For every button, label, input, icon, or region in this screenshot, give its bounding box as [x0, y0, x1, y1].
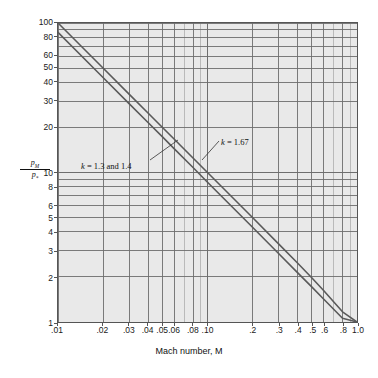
- y-axis-title-denominator: p*: [20, 170, 50, 181]
- x-tick-label: .02: [96, 326, 108, 335]
- x-tick-label: .2: [249, 326, 256, 335]
- y-axis-title: pM p*: [20, 158, 50, 181]
- annotation-k-1-67: k = 1.67: [221, 137, 249, 147]
- y-tick-label: 8: [48, 183, 53, 192]
- y-tick-label: 60: [44, 51, 53, 60]
- y-tick-label: 100: [39, 18, 53, 27]
- x-axis-title: Mach number, M: [0, 346, 378, 356]
- y-tick-label: 5: [48, 214, 53, 223]
- x-tick-label: .06: [168, 326, 180, 335]
- y-tick-label: 6: [48, 202, 53, 211]
- x-tick-label: .3: [276, 326, 283, 335]
- plot-area: [57, 22, 358, 323]
- x-tick-label: .4: [295, 326, 302, 335]
- x-axis-tick-labels: .01.02.03.04.05.06.08.10.2.3.4.5.6.81.0: [0, 326, 378, 342]
- x-tick-label: .5: [309, 326, 316, 335]
- x-tick-label: .01: [51, 326, 63, 335]
- y-tick-label: 2: [48, 273, 53, 282]
- annotation-k167-rest: = 1.67: [225, 137, 249, 147]
- data-layer: [58, 23, 357, 322]
- x-tick-label: .10: [202, 326, 214, 335]
- annotation-k13-rest: = 1.3 and 1.4: [85, 161, 132, 171]
- x-tick-label: .8: [340, 326, 347, 335]
- annotation-k-1-3-and-1-4: k = 1.3 and 1.4: [81, 161, 132, 171]
- y-tick-label: 50: [44, 63, 53, 72]
- y-tick-label: 30: [44, 96, 53, 105]
- x-tick-label: .08: [187, 326, 199, 335]
- x-tick-label: .05: [156, 326, 168, 335]
- curve-k-1-67: [58, 23, 357, 322]
- y-tick-label: 80: [44, 32, 53, 41]
- y-axis-title-numerator: pM: [20, 158, 50, 170]
- chart-figure: 100806050403020108654321 pM p* .01.02.03…: [0, 0, 378, 378]
- x-tick-label: 1.0: [352, 326, 364, 335]
- y-tick-label: 40: [44, 78, 53, 87]
- y-tick-label: 3: [48, 247, 53, 256]
- y-axis-tick-labels: 100806050403020108654321: [0, 0, 53, 378]
- y-tick-label: 4: [48, 228, 53, 237]
- x-tick-label: .6: [321, 326, 328, 335]
- y-tick-label: 20: [44, 123, 53, 132]
- x-tick-label: .03: [123, 326, 135, 335]
- x-tick-label: .04: [142, 326, 154, 335]
